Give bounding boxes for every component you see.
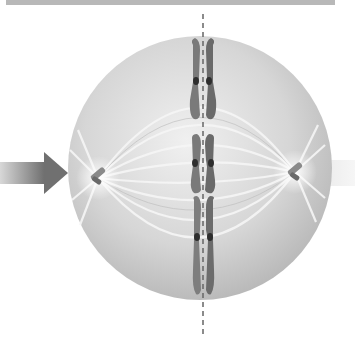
left-arrow-icon [0,152,68,194]
metaphase-diagram [0,0,355,350]
